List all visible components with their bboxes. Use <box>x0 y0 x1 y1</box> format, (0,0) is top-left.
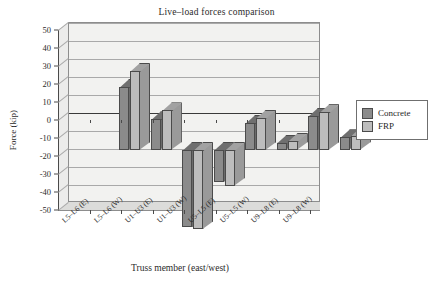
bar-concrete[interactable] <box>214 150 224 182</box>
x-tick-mark <box>247 210 248 214</box>
x-axis-title: Truss member (east/west) <box>30 263 330 273</box>
bar-side-face <box>139 63 150 150</box>
legend-swatch-frp <box>362 121 373 132</box>
zero-line-tick <box>184 120 185 123</box>
chart-legend: Concrete FRP <box>356 100 428 140</box>
bar-frp[interactable] <box>130 71 140 150</box>
y-tick-mark <box>54 66 58 67</box>
y-tick-mark <box>54 48 58 49</box>
x-tick-mark <box>310 210 311 214</box>
bar-concrete[interactable] <box>308 116 318 150</box>
y-tick-label: 0 <box>0 115 51 125</box>
bar-frp[interactable] <box>319 112 329 150</box>
bar-side-face <box>202 142 213 229</box>
x-tick-mark <box>90 210 91 214</box>
y-tick-mark <box>54 210 58 211</box>
y-tick-label: -20 <box>0 151 51 161</box>
y-tick-mark <box>54 120 58 121</box>
y-tick-mark <box>54 30 58 31</box>
y-tick-label: 50 <box>0 25 51 35</box>
bar-frp[interactable] <box>288 141 298 150</box>
y-tick-label: 30 <box>0 61 51 71</box>
y-tick-mark <box>54 138 58 139</box>
legend-item-concrete[interactable]: Concrete <box>362 108 422 119</box>
y-tick-label: -30 <box>0 169 51 179</box>
zero-line-tick <box>90 120 91 123</box>
legend-label-frp: FRP <box>378 122 394 131</box>
chart-figure: Live–load forces comparison Force (kip) … <box>0 0 433 289</box>
zero-line-tick <box>216 120 217 123</box>
zero-line-tick <box>121 120 122 123</box>
y-tick-mark <box>54 84 58 85</box>
y-tick-mark <box>54 192 58 193</box>
zero-line-tick <box>279 120 280 123</box>
bar-concrete[interactable] <box>340 137 350 150</box>
y-tick-label: -40 <box>0 187 51 197</box>
bar-concrete[interactable] <box>119 87 129 150</box>
bar-frp[interactable] <box>256 118 266 150</box>
legend-label-concrete: Concrete <box>378 109 410 118</box>
x-tick-mark <box>216 210 217 214</box>
y-tick-mark <box>54 174 58 175</box>
bar-frp[interactable] <box>225 150 235 186</box>
grid-line <box>69 23 319 24</box>
y-tick-mark <box>54 156 58 157</box>
zero-line-tick <box>153 120 154 123</box>
legend-item-frp[interactable]: FRP <box>362 121 422 132</box>
x-tick-mark <box>121 210 122 214</box>
y-tick-label: 10 <box>0 97 51 107</box>
y-tick-label: 20 <box>0 79 51 89</box>
y-tick-mark <box>54 102 58 103</box>
legend-swatch-concrete <box>362 108 373 119</box>
x-tick-mark <box>153 210 154 214</box>
zero-line-tick <box>247 120 248 123</box>
bar-concrete[interactable] <box>151 119 161 150</box>
x-tick-mark <box>184 210 185 214</box>
chart-title: Live–load forces comparison <box>0 7 433 17</box>
bar-frp[interactable] <box>162 110 172 150</box>
y-axis-title-text: Force (kip) <box>8 80 18 180</box>
y-tick-label: 40 <box>0 43 51 53</box>
y-tick-label: -10 <box>0 133 51 143</box>
bar-concrete[interactable] <box>245 123 255 150</box>
x-tick-mark <box>279 210 280 214</box>
y-tick-label: -50 <box>0 205 51 215</box>
bar-concrete[interactable] <box>277 143 287 150</box>
